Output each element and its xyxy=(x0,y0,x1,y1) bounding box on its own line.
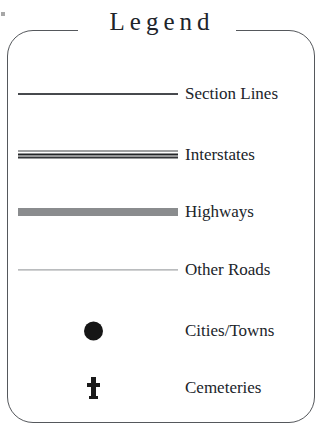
legend-row-interstates: Interstates xyxy=(7,133,315,177)
legend-label-section-lines: Section Lines xyxy=(179,84,278,104)
legend-row-highways: Highways xyxy=(7,190,315,234)
legend-label-cities-towns: Cities/Towns xyxy=(179,321,274,341)
legend-row-section-lines: Section Lines xyxy=(7,72,315,116)
other-road-line-symbol-cell xyxy=(7,248,179,292)
highway-line-symbol-cell xyxy=(7,190,179,234)
cemetery-cross-symbol-cell xyxy=(7,366,179,410)
section-line-symbol-cell xyxy=(7,72,179,116)
legend-row-other-roads: Other Roads xyxy=(7,248,315,292)
legend-row-cities-towns: Cities/Towns xyxy=(7,309,315,353)
interstate-line-symbol-cell xyxy=(7,133,179,177)
legend-label-interstates: Interstates xyxy=(179,145,255,165)
cemetery-cross-icon xyxy=(7,377,179,399)
city-dot-symbol-cell xyxy=(7,309,179,353)
other-road-line-icon xyxy=(18,269,178,270)
legend-rows: Section Lines Interstates Highways Other… xyxy=(7,30,315,423)
interstate-line-icon xyxy=(18,151,178,160)
legend-row-cemeteries: Cemeteries xyxy=(7,366,315,410)
city-dot-icon xyxy=(7,322,179,341)
section-line-icon xyxy=(18,93,178,95)
legend-label-highways: Highways xyxy=(179,202,254,222)
highway-line-icon xyxy=(18,208,178,216)
legend-label-cemeteries: Cemeteries xyxy=(179,378,261,398)
legend-label-other-roads: Other Roads xyxy=(179,260,270,280)
